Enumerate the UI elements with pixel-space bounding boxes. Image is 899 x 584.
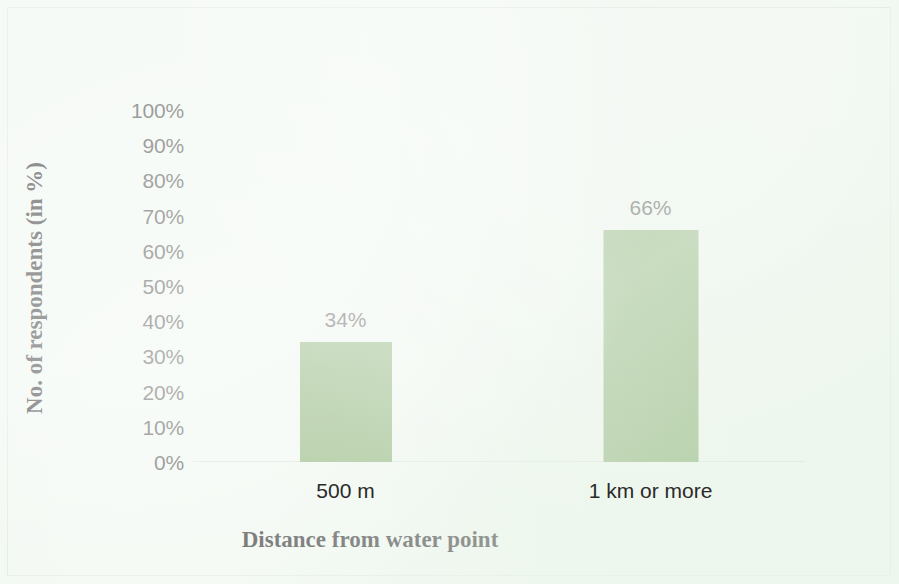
y-axis-tick-labels: 100%90%80%70%60%50%40%30%20%10%0%: [96, 110, 184, 462]
y-axis-tick-90: 90%: [96, 135, 184, 156]
y-axis-title: No. of respondents (in %): [22, 138, 48, 438]
x-axis-title: Distance from water point: [0, 527, 740, 553]
x-axis-category-label: 1 km or more: [589, 480, 713, 501]
x-axis-category-label: 500 m: [316, 480, 374, 501]
bar-value-label: 66%: [629, 197, 671, 218]
y-axis-tick-0: 0%: [96, 452, 184, 473]
bar[interactable]: [300, 342, 392, 462]
bar[interactable]: [603, 230, 698, 462]
y-axis-tick-100: 100%: [96, 100, 184, 121]
y-axis-tick-70: 70%: [96, 205, 184, 226]
y-axis-tick-50: 50%: [96, 276, 184, 297]
y-axis-tick-10: 10%: [96, 416, 184, 437]
bar-group: 34%: [193, 110, 498, 462]
bar-group: 66%: [498, 110, 803, 462]
y-axis-tick-20: 20%: [96, 381, 184, 402]
y-axis-tick-60: 60%: [96, 240, 184, 261]
plot-area: 34%66%: [193, 110, 803, 462]
bar-value-label: 34%: [324, 309, 366, 330]
y-axis-tick-40: 40%: [96, 311, 184, 332]
y-axis-tick-80: 80%: [96, 170, 184, 191]
y-axis-tick-30: 30%: [96, 346, 184, 367]
chart-page: No. of respondents (in %) 100%90%80%70%6…: [0, 0, 899, 584]
